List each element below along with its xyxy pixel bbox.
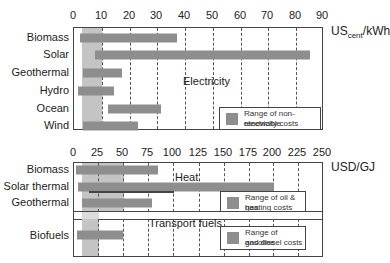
unit-text: US	[331, 24, 348, 38]
category-label: Wind	[44, 119, 69, 131]
tick: 225	[288, 146, 306, 158]
tick: 30	[150, 9, 162, 21]
category-label: Solar thermal	[4, 180, 69, 192]
bar-biofuels	[77, 231, 123, 240]
category-label: Biomass	[27, 31, 69, 43]
legend-swatch	[227, 232, 239, 244]
non-renewable-range-band	[82, 28, 102, 129]
tick: 25	[91, 146, 103, 158]
category-label: Ocean	[37, 102, 69, 114]
tick: 0	[70, 146, 76, 158]
gridline	[130, 28, 131, 129]
gridline	[102, 28, 103, 129]
tick: 60	[234, 9, 246, 21]
gridline	[123, 219, 124, 256]
top-axis-ticks: 0 10 20 30 40 50 60 70 80 90	[0, 9, 389, 23]
electricity-annotation: Electricity	[183, 75, 230, 87]
category-label: Solar	[43, 48, 69, 60]
bar-heat-geothermal	[82, 199, 152, 208]
tick: 175	[239, 146, 257, 158]
electricity-category-labels: Biomass Solar Geothermal Hydro Ocean Win…	[0, 27, 69, 129]
heat-annotation: Heat	[175, 171, 198, 183]
tick: 250	[313, 146, 331, 158]
category-label: Hydro	[40, 84, 69, 96]
tick: 90	[316, 9, 328, 21]
category-label: Biomass	[27, 163, 69, 175]
bar-ocean	[108, 105, 161, 114]
heat-category-labels: Biomass Solar thermal Geothermal Biofuel…	[0, 162, 69, 262]
tick: 150	[214, 146, 232, 158]
divider-band	[82, 212, 99, 219]
tick: 80	[289, 9, 301, 21]
bottom-axis-ticks: 0 25 50 75 100 125 150 175 200 225 250	[0, 146, 389, 160]
electricity-plot-area: Electricity Range of non-renewable elect…	[73, 27, 323, 130]
tick: 100	[163, 146, 181, 158]
tick: 50	[116, 146, 128, 158]
tick: 10	[95, 9, 107, 21]
unit-text: /kWh	[363, 24, 390, 38]
tick: 75	[141, 146, 153, 158]
bar-wind	[83, 122, 138, 131]
tick: 40	[178, 9, 190, 21]
tick: 125	[189, 146, 207, 158]
gasoline-diesel-legend: Range of gasoline and diesel costs	[220, 226, 306, 250]
bar-heat-biomass	[76, 166, 158, 175]
bar-hydro	[78, 87, 114, 96]
bar-solar	[95, 51, 310, 60]
legend-swatch	[226, 113, 238, 125]
tick: 70	[261, 9, 273, 21]
category-label: Geothermal	[12, 196, 69, 208]
gridline	[157, 28, 158, 129]
category-label: Geothermal	[12, 66, 69, 78]
legend-swatch	[227, 197, 239, 209]
transport-annotation: Transport fuels	[149, 217, 222, 229]
unit-subscript: cent	[348, 31, 363, 40]
tick: 200	[263, 146, 281, 158]
electricity-legend: Range of non-renewable electricity costs	[219, 107, 321, 130]
tick: 50	[206, 9, 218, 21]
heat-legend	[89, 191, 174, 193]
bar-biomass	[80, 34, 177, 43]
tick: 0	[70, 9, 76, 21]
electricity-unit-label: UScent/kWh	[331, 24, 390, 40]
heat-unit-label: USD/GJ	[331, 160, 375, 174]
legend-text: and diesel costs	[245, 238, 302, 248]
bar-geothermal	[83, 69, 122, 78]
legend-text: electricity costs	[244, 119, 298, 129]
tick: 20	[123, 9, 135, 21]
category-label: Biofuels	[30, 229, 69, 241]
